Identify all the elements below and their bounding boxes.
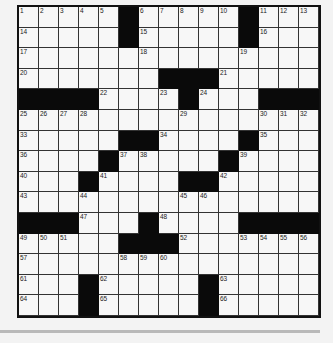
grid-cell[interactable]: 42 xyxy=(219,172,239,193)
grid-cell[interactable] xyxy=(139,295,159,316)
grid-cell[interactable]: 36 xyxy=(19,151,39,172)
grid-cell[interactable] xyxy=(179,151,199,172)
grid-cell[interactable] xyxy=(39,48,59,69)
grid-cell[interactable] xyxy=(39,295,59,316)
grid-cell[interactable] xyxy=(299,295,319,316)
grid-cell[interactable] xyxy=(99,69,119,90)
grid-cell[interactable] xyxy=(119,192,139,213)
grid-cell[interactable]: 14 xyxy=(19,28,39,49)
grid-cell[interactable]: 58 xyxy=(119,254,139,275)
grid-cell[interactable]: 13 xyxy=(299,7,319,28)
grid-cell[interactable] xyxy=(299,151,319,172)
grid-cell[interactable] xyxy=(199,131,219,152)
grid-cell[interactable] xyxy=(279,69,299,90)
grid-cell[interactable] xyxy=(99,48,119,69)
grid-cell[interactable] xyxy=(279,131,299,152)
grid-cell[interactable] xyxy=(299,192,319,213)
grid-cell[interactable] xyxy=(239,254,259,275)
grid-cell[interactable] xyxy=(199,234,219,255)
grid-cell[interactable]: 29 xyxy=(179,110,199,131)
grid-cell[interactable]: 15 xyxy=(139,28,159,49)
grid-cell[interactable] xyxy=(99,254,119,275)
grid-cell[interactable]: 49 xyxy=(19,234,39,255)
grid-cell[interactable] xyxy=(39,69,59,90)
grid-cell[interactable]: 27 xyxy=(59,110,79,131)
grid-cell[interactable] xyxy=(99,213,119,234)
grid-cell[interactable] xyxy=(139,110,159,131)
grid-cell[interactable] xyxy=(279,275,299,296)
grid-cell[interactable] xyxy=(259,151,279,172)
grid-cell[interactable]: 32 xyxy=(299,110,319,131)
grid-cell[interactable] xyxy=(59,192,79,213)
grid-cell[interactable] xyxy=(259,192,279,213)
grid-cell[interactable]: 31 xyxy=(279,110,299,131)
grid-cell[interactable] xyxy=(159,48,179,69)
grid-cell[interactable] xyxy=(259,295,279,316)
grid-cell[interactable] xyxy=(219,28,239,49)
grid-cell[interactable] xyxy=(179,275,199,296)
grid-cell[interactable] xyxy=(219,234,239,255)
grid-cell[interactable] xyxy=(199,213,219,234)
grid-cell[interactable] xyxy=(39,28,59,49)
grid-cell[interactable]: 33 xyxy=(19,131,39,152)
grid-cell[interactable] xyxy=(219,213,239,234)
grid-cell[interactable]: 5 xyxy=(99,7,119,28)
grid-cell[interactable] xyxy=(219,131,239,152)
grid-cell[interactable] xyxy=(179,213,199,234)
grid-cell[interactable] xyxy=(179,131,199,152)
grid-cell[interactable] xyxy=(119,89,139,110)
grid-cell[interactable] xyxy=(239,295,259,316)
grid-cell[interactable] xyxy=(179,28,199,49)
grid-cell[interactable] xyxy=(299,254,319,275)
grid-cell[interactable] xyxy=(239,172,259,193)
grid-cell[interactable] xyxy=(79,131,99,152)
grid-cell[interactable] xyxy=(139,192,159,213)
grid-cell[interactable] xyxy=(159,295,179,316)
grid-cell[interactable]: 37 xyxy=(119,151,139,172)
grid-cell[interactable]: 19 xyxy=(239,48,259,69)
grid-cell[interactable]: 45 xyxy=(179,192,199,213)
grid-cell[interactable]: 43 xyxy=(19,192,39,213)
grid-cell[interactable]: 3 xyxy=(59,7,79,28)
grid-cell[interactable] xyxy=(279,48,299,69)
grid-cell[interactable] xyxy=(79,151,99,172)
grid-cell[interactable]: 52 xyxy=(179,234,199,255)
grid-cell[interactable]: 18 xyxy=(139,48,159,69)
grid-cell[interactable]: 12 xyxy=(279,7,299,28)
grid-cell[interactable] xyxy=(219,89,239,110)
grid-cell[interactable] xyxy=(139,89,159,110)
grid-cell[interactable] xyxy=(159,275,179,296)
grid-cell[interactable] xyxy=(179,48,199,69)
grid-cell[interactable] xyxy=(299,172,319,193)
grid-cell[interactable] xyxy=(99,110,119,131)
grid-cell[interactable]: 26 xyxy=(39,110,59,131)
grid-cell[interactable] xyxy=(279,295,299,316)
grid-cell[interactable]: 54 xyxy=(259,234,279,255)
grid-cell[interactable]: 44 xyxy=(79,192,99,213)
grid-cell[interactable] xyxy=(179,254,199,275)
grid-cell[interactable]: 2 xyxy=(39,7,59,28)
grid-cell[interactable] xyxy=(159,110,179,131)
grid-cell[interactable] xyxy=(299,275,319,296)
grid-cell[interactable] xyxy=(219,110,239,131)
grid-cell[interactable] xyxy=(59,48,79,69)
grid-cell[interactable] xyxy=(119,110,139,131)
grid-cell[interactable]: 22 xyxy=(99,89,119,110)
grid-cell[interactable] xyxy=(79,234,99,255)
grid-cell[interactable] xyxy=(259,275,279,296)
grid-cell[interactable] xyxy=(279,151,299,172)
grid-cell[interactable] xyxy=(299,131,319,152)
grid-cell[interactable] xyxy=(219,254,239,275)
grid-cell[interactable] xyxy=(159,28,179,49)
grid-cell[interactable] xyxy=(259,69,279,90)
grid-cell[interactable]: 25 xyxy=(19,110,39,131)
grid-cell[interactable]: 64 xyxy=(19,295,39,316)
grid-cell[interactable] xyxy=(159,151,179,172)
grid-cell[interactable]: 10 xyxy=(219,7,239,28)
grid-cell[interactable]: 62 xyxy=(99,275,119,296)
grid-cell[interactable] xyxy=(59,28,79,49)
grid-cell[interactable] xyxy=(119,69,139,90)
grid-cell[interactable]: 41 xyxy=(99,172,119,193)
grid-cell[interactable]: 47 xyxy=(79,213,99,234)
grid-cell[interactable] xyxy=(159,192,179,213)
